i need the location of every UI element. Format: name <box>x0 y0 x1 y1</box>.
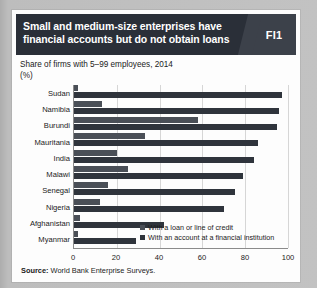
category-label-india: India <box>54 153 70 162</box>
bar-senegal-series0 <box>74 182 108 188</box>
chart-unit-label: (%) <box>20 71 300 81</box>
chart-area: SudanNamibiaBurundiMauritaniaIndiaMalawi… <box>12 85 300 265</box>
chart-legend: With a loan or line of credit With an ac… <box>140 223 274 243</box>
figure-title: Small and medium-size enterprises have f… <box>16 14 252 55</box>
bar-malawi-series1 <box>74 173 243 179</box>
chart-row: Senegal <box>74 182 288 198</box>
chart-x-axis: 020406080100 <box>73 251 288 265</box>
category-label-senegal: Senegal <box>42 186 70 195</box>
bar-nigeria-series1 <box>74 206 224 212</box>
source-note-text: World Bank Enterprise Surveys. <box>51 266 156 275</box>
legend-item-account: With an account at a financial instituti… <box>140 233 274 242</box>
chart-subtitle: Share of firms with 5–99 employees, 2014 <box>20 60 300 71</box>
x-tick-100: 100 <box>282 253 295 262</box>
category-label-namibia: Namibia <box>42 104 70 113</box>
bar-senegal-series1 <box>74 189 235 195</box>
bar-burundi-series1 <box>74 124 277 130</box>
category-label-nigeria: Nigeria <box>46 202 70 211</box>
figure-number-badge-label: FI1 <box>266 29 283 41</box>
x-tick-40: 40 <box>155 253 163 262</box>
bar-namibia-series1 <box>74 108 279 114</box>
legend-item-loan: With a loan or line of credit <box>140 223 274 232</box>
chart-row: Nigeria <box>74 199 288 215</box>
figure-title-line-2: financial accounts but do not obtain loa… <box>23 33 248 46</box>
source-note: Source: World Bank Enterprise Surveys. <box>21 266 155 275</box>
bar-nigeria-series0 <box>74 199 100 205</box>
figure-card: Small and medium-size enterprises have f… <box>12 10 300 282</box>
bar-mauritania-series1 <box>74 140 258 146</box>
legend-swatch-loan <box>140 225 145 230</box>
category-label-malawi: Malawi <box>46 170 70 179</box>
chart-row: Burundi <box>74 117 288 133</box>
x-tick-0: 0 <box>71 253 75 262</box>
legend-label-account: With an account at a financial instituti… <box>148 233 274 242</box>
category-label-myanmar: Myanmar <box>38 235 70 244</box>
category-label-burundi: Burundi <box>44 121 70 130</box>
chart-row: Mauritania <box>74 133 288 149</box>
chart-row: Malawi <box>74 166 288 182</box>
legend-label-loan: With a loan or line of credit <box>148 223 233 232</box>
figure-number-badge: FI1 <box>252 14 296 55</box>
gridline-100 <box>288 85 289 248</box>
x-tick-80: 80 <box>241 253 249 262</box>
bar-india-series1 <box>74 157 254 163</box>
bar-burundi-series0 <box>74 117 198 123</box>
bar-malawi-series0 <box>74 166 128 172</box>
bar-india-series0 <box>74 150 117 156</box>
figure-title-line-1: Small and medium-size enterprises have <box>23 20 248 33</box>
bar-myanmar-series0 <box>74 231 78 237</box>
category-label-sudan: Sudan <box>48 88 70 97</box>
bar-mauritania-series0 <box>74 133 145 139</box>
legend-swatch-account <box>140 235 145 240</box>
x-tick-20: 20 <box>112 253 120 262</box>
bar-sudan-series0 <box>74 85 78 91</box>
category-label-mauritania: Mauritania <box>35 137 70 146</box>
source-note-label: Source: <box>21 266 49 275</box>
chart-row: Namibia <box>74 101 288 117</box>
figure-title-bar: Small and medium-size enterprises have f… <box>16 14 296 55</box>
bar-sudan-series1 <box>74 92 282 98</box>
bar-myanmar-series1 <box>74 238 136 244</box>
chart-row: Sudan <box>74 85 288 101</box>
chart-row: India <box>74 150 288 166</box>
x-tick-60: 60 <box>198 253 206 262</box>
bar-afghanistan-series0 <box>74 215 80 221</box>
bar-namibia-series0 <box>74 101 102 107</box>
category-label-afghanistan: Afghanistan <box>30 219 70 228</box>
